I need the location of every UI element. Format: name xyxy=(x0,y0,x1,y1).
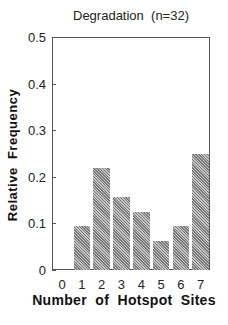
y-tick-mark xyxy=(52,270,56,271)
y-tick-mark xyxy=(52,37,56,38)
y-tick-label: 0 xyxy=(39,263,46,278)
y-tick-label: 0.2 xyxy=(28,169,46,184)
y-axis-label: Relative Frequency xyxy=(5,89,20,221)
y-tick-mark xyxy=(52,84,56,85)
x-tick-label: 1 xyxy=(74,277,90,292)
x-tick-label: 4 xyxy=(133,277,149,292)
bar-6 xyxy=(173,226,190,270)
y-tick-label: 0.1 xyxy=(28,216,46,231)
x-tick-label: 2 xyxy=(94,277,110,292)
bar-3 xyxy=(113,197,130,270)
y-tick-mark xyxy=(52,223,56,224)
y-tick-label: 0.3 xyxy=(28,123,46,138)
x-tick-label: 3 xyxy=(113,277,129,292)
bar-4 xyxy=(133,212,150,270)
y-tick-label: 0.5 xyxy=(28,30,46,45)
x-tick-label: 5 xyxy=(153,277,169,292)
x-tick-label: 7 xyxy=(193,277,209,292)
y-tick-label: 0.4 xyxy=(28,76,46,91)
chart-title: Degradation (n=32) xyxy=(52,8,210,23)
bar-1 xyxy=(74,226,91,270)
y-tick-mark xyxy=(52,130,56,131)
bar-5 xyxy=(153,241,170,270)
x-tick-label: 6 xyxy=(173,277,189,292)
bar-2 xyxy=(93,168,110,270)
bar-7 xyxy=(192,154,209,271)
y-tick-mark xyxy=(52,177,56,178)
x-axis-label: Number of Hotspot Sites xyxy=(24,292,224,308)
x-tick-label: 0 xyxy=(54,277,70,292)
